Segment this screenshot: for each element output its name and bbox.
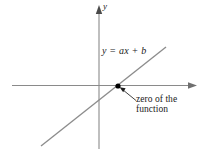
callout-line-1: zero of the bbox=[136, 94, 177, 104]
zero-point-marker bbox=[115, 83, 120, 88]
callout-line-2: function bbox=[136, 105, 177, 115]
linear-function-figure: y y = ax + b zero of thefunction bbox=[0, 0, 204, 156]
callout-leader-line bbox=[123, 90, 137, 101]
callout-leader bbox=[120, 87, 136, 100]
zero-callout-label: zero of thefunction bbox=[136, 95, 177, 114]
equation-label: y = ax + b bbox=[102, 46, 146, 56]
x-axis bbox=[12, 82, 197, 89]
x-axis-arrowhead-icon bbox=[188, 82, 197, 89]
y-axis-label: y bbox=[103, 2, 107, 11]
y-axis bbox=[96, 5, 102, 149]
y-axis-arrowhead-icon bbox=[96, 5, 102, 14]
figure-canvas bbox=[0, 0, 204, 156]
